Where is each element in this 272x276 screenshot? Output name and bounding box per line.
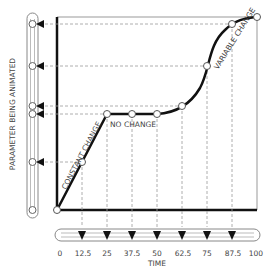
tick-label: 25	[102, 249, 112, 258]
vertical-guides	[82, 24, 232, 227]
tick-label: 62.5	[175, 249, 192, 258]
tick-label: 0	[58, 249, 63, 258]
label-no-change: NO CHANGE	[110, 120, 156, 129]
label-constant-change: CONSTANT CHANGE	[60, 120, 103, 191]
tick-label: 12.5	[75, 249, 92, 258]
animation-graph-diagram: CONSTANT CHANGE NO CHANGE VARIABLE CHANG…	[0, 0, 272, 276]
time-tick-labels: 0 12.5 25 37.5 50 62.5 75 87.5 100	[58, 249, 264, 258]
y-axis-label: PARAMETER BEING ANIMATED	[8, 58, 17, 171]
tick-label: 100	[249, 249, 264, 258]
tick-label: 87.5	[225, 249, 242, 258]
x-axis-label: TIME	[147, 259, 166, 268]
tick-label: 50	[152, 249, 162, 258]
tick-label: 37.5	[124, 249, 141, 258]
horizontal-guides	[40, 24, 232, 162]
tick-label: 75	[202, 249, 212, 258]
